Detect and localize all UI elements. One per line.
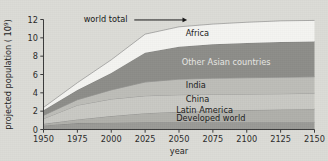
x-tick-label: 2150 <box>304 134 325 144</box>
stacked-area-chart: 0246810121950197520002025205020752100212… <box>0 0 328 161</box>
series-label-india: India <box>186 80 206 90</box>
arrow-right-icon-head <box>183 18 188 23</box>
y-tick-label: 12 <box>28 15 38 25</box>
x-tick-label: 2100 <box>236 134 257 144</box>
x-axis-title: year <box>170 146 189 156</box>
y-tick-label: 4 <box>33 88 38 98</box>
series-label-africa: Africa <box>186 28 209 38</box>
y-tick-label: 2 <box>33 106 38 116</box>
x-tick-label: 2050 <box>169 134 190 144</box>
x-tick-label: 2125 <box>270 134 291 144</box>
y-tick-label: 10 <box>28 33 38 43</box>
series-label-other-asian-countries: Other Asian countries <box>182 57 271 67</box>
y-tick-label: 6 <box>33 70 38 80</box>
area-band-developed-world <box>44 122 315 129</box>
series-label-developed-world: Developed world <box>176 113 245 123</box>
x-tick-label: 2000 <box>101 134 122 144</box>
x-tick-label: 1975 <box>67 134 88 144</box>
chart-figure: 0246810121950197520002025205020752100212… <box>0 0 328 161</box>
x-tick-label: 2075 <box>202 134 223 144</box>
x-tick-label: 2025 <box>135 134 156 144</box>
y-tick-label: 8 <box>33 51 38 61</box>
series-label-china: China <box>186 94 209 104</box>
y-axis-title: projected population ( 109) <box>3 19 13 129</box>
world-total-annotation: world total <box>84 14 128 24</box>
svg-text:projected population ( 109): projected population ( 109) <box>3 19 13 129</box>
x-tick-label: 1950 <box>33 134 54 144</box>
